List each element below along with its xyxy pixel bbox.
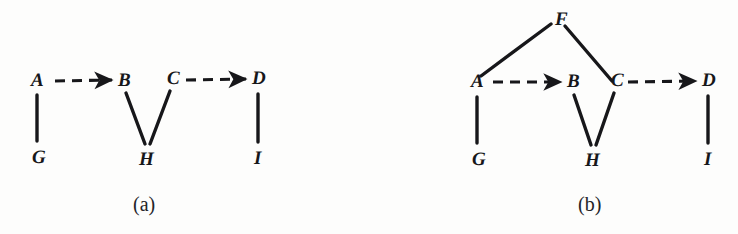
graph-node-i: I xyxy=(254,149,261,168)
graph-node-b: B xyxy=(567,72,580,91)
graph-node-d: D xyxy=(252,69,266,88)
graph-edges-a xyxy=(0,0,369,234)
graph-node-i: I xyxy=(704,150,711,169)
graph-node-a: A xyxy=(31,71,44,90)
figure-canvas: ABCDGHI (a) FABCDGHI (b) xyxy=(0,0,738,234)
graph-node-a: A xyxy=(471,72,484,91)
graph-panel-a: ABCDGHI (a) xyxy=(0,0,369,234)
graph-edges-b xyxy=(369,0,738,234)
graph-node-g: G xyxy=(32,148,46,167)
graph-edge-b-h xyxy=(126,93,145,144)
graph-node-c: C xyxy=(611,71,624,90)
graph-edge-c-d xyxy=(186,79,246,80)
graph-node-b: B xyxy=(118,71,131,90)
graph-node-h: H xyxy=(585,151,600,170)
graph-edge-a-f xyxy=(481,24,551,76)
panel-caption-b: (b) xyxy=(578,194,601,214)
graph-panel-b: FABCDGHI (b) xyxy=(369,0,738,234)
graph-edge-a-b xyxy=(55,80,112,81)
graph-node-g: G xyxy=(472,150,486,169)
graph-node-f: F xyxy=(555,10,568,29)
graph-edge-c-h xyxy=(596,93,614,145)
graph-node-c: C xyxy=(167,69,180,88)
graph-edge-c-h xyxy=(150,91,170,144)
graph-node-d: D xyxy=(702,71,716,90)
panel-caption-a: (a) xyxy=(133,194,155,214)
graph-edge-c-d xyxy=(628,81,696,82)
graph-node-h: H xyxy=(139,150,154,169)
graph-edge-b-h xyxy=(574,95,591,145)
